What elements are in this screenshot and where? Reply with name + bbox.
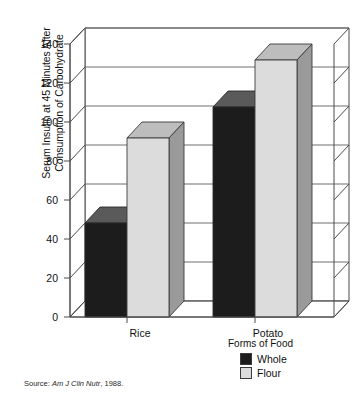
bar-potato-flour (255, 44, 312, 317)
source-comma: , (100, 379, 102, 388)
legend-item-flour: Flour (240, 367, 348, 379)
y-tick-label-60: 60 (24, 194, 58, 206)
x-axis-ticks (127, 317, 255, 323)
source-note: Source: Am J Clin Nutr, 1988. (24, 379, 123, 388)
x-tick-label-rice: Rice (129, 327, 150, 339)
source-year: 1988. (104, 379, 123, 388)
legend-label-whole: Whole (257, 353, 287, 365)
y-tick-label-80: 80 (24, 155, 58, 167)
bar-rice-flour (127, 122, 184, 317)
source-label: Source: (24, 379, 50, 388)
plot-left-wall (70, 28, 85, 317)
y-tick-label-40: 40 (24, 233, 58, 245)
y-axis-ticks (64, 44, 70, 317)
y-tick-label-20: 20 (24, 272, 58, 284)
legend-swatch-whole (240, 353, 252, 365)
legend-swatch-flour (240, 367, 252, 379)
y-tick-label-120: 120 (24, 77, 58, 89)
y-tick-label-100: 100 (24, 116, 58, 128)
legend-label-flour: Flour (257, 367, 281, 379)
legend-title: Forms of Food (228, 338, 348, 349)
chart-figure: Serum Insulin at 45 Minutes After Consum… (0, 0, 362, 405)
y-tick-label-140: 140 (24, 38, 58, 50)
legend-item-whole: Whole (240, 353, 348, 365)
source-journal: Am J Clin Nutr (52, 379, 100, 388)
chart-legend: Forms of Food Whole Flour (228, 338, 348, 381)
y-tick-label-0: 0 (24, 311, 58, 323)
